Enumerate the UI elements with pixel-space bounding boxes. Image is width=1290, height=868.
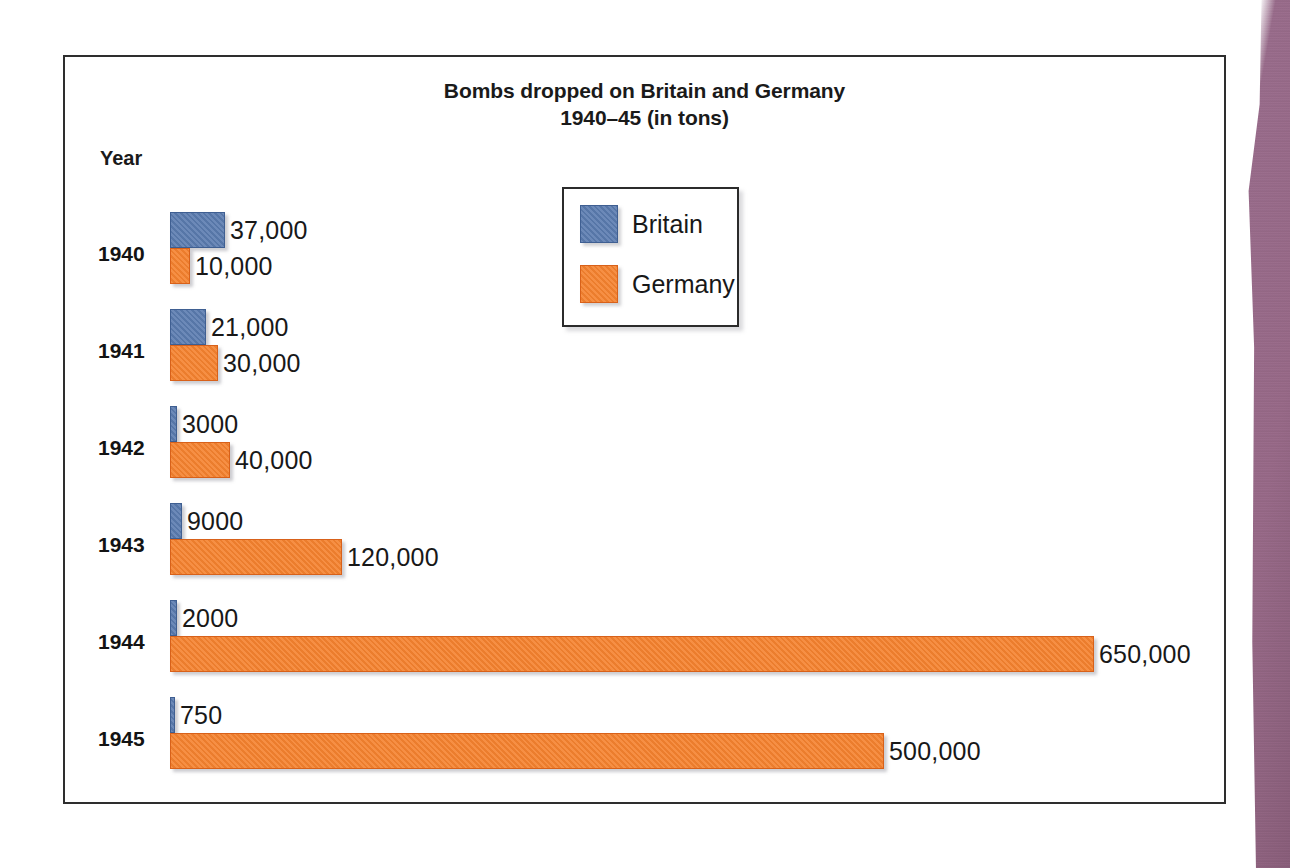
bar-row-britain-1942: 3000 xyxy=(170,406,238,442)
chart-frame: Bombs dropped on Britain and Germany 194… xyxy=(63,55,1226,804)
bar-row-germany-1943: 120,000 xyxy=(170,539,439,575)
year-label-1945: 1945 xyxy=(98,727,170,751)
bar-value-germany-1945: 500,000 xyxy=(889,737,981,766)
bar-row-germany-1941: 30,000 xyxy=(170,345,301,381)
bar-britain-1943 xyxy=(170,503,182,539)
year-label-1942: 1942 xyxy=(98,436,170,460)
year-group-1944: 19442000650,000 xyxy=(65,600,1224,686)
bar-germany-1940 xyxy=(170,248,190,284)
page-edge-grain xyxy=(1244,0,1290,868)
bar-row-britain-1945: 750 xyxy=(170,697,222,733)
year-label-1940: 1940 xyxy=(98,242,170,266)
bar-value-germany-1941: 30,000 xyxy=(223,349,301,378)
bar-stack-1942: 300040,000 xyxy=(170,406,1224,492)
bar-germany-1945 xyxy=(170,733,884,769)
bar-row-germany-1944: 650,000 xyxy=(170,636,1191,672)
bar-value-britain-1941: 21,000 xyxy=(211,313,289,342)
year-label-1941: 1941 xyxy=(98,339,170,363)
bar-germany-1943 xyxy=(170,539,342,575)
year-label-1944: 1944 xyxy=(98,630,170,654)
bar-britain-1941 xyxy=(170,309,206,345)
bar-row-britain-1944: 2000 xyxy=(170,600,238,636)
legend-label-germany: Germany xyxy=(632,270,735,299)
plot-area: 194037,00010,000194121,00030,00019423000… xyxy=(65,57,1224,802)
bar-stack-1943: 9000120,000 xyxy=(170,503,1224,589)
bar-value-britain-1945: 750 xyxy=(180,701,222,730)
bar-britain-1944 xyxy=(170,600,177,636)
year-group-1943: 19439000120,000 xyxy=(65,503,1224,589)
bar-row-germany-1942: 40,000 xyxy=(170,442,313,478)
bar-germany-1941 xyxy=(170,345,218,381)
year-group-1945: 1945750500,000 xyxy=(65,697,1224,783)
bar-stack-1944: 2000650,000 xyxy=(170,600,1224,686)
bar-germany-1942 xyxy=(170,442,230,478)
bar-value-britain-1943: 9000 xyxy=(187,507,243,536)
bar-value-germany-1944: 650,000 xyxy=(1099,640,1191,669)
bar-row-britain-1943: 9000 xyxy=(170,503,243,539)
legend-item-germany[interactable]: Germany xyxy=(580,265,735,303)
bar-britain-1940 xyxy=(170,212,225,248)
bar-stack-1945: 750500,000 xyxy=(170,697,1224,783)
bar-value-germany-1942: 40,000 xyxy=(235,446,313,475)
legend-swatch-britain xyxy=(580,205,618,243)
bar-value-britain-1944: 2000 xyxy=(182,604,238,633)
bar-value-germany-1943: 120,000 xyxy=(347,543,439,572)
legend-label-britain: Britain xyxy=(632,210,703,239)
bar-row-britain-1941: 21,000 xyxy=(170,309,289,345)
bar-row-britain-1940: 37,000 xyxy=(170,212,308,248)
bar-value-britain-1942: 3000 xyxy=(182,410,238,439)
bar-britain-1945 xyxy=(170,697,175,733)
year-label-1943: 1943 xyxy=(98,533,170,557)
bar-value-britain-1940: 37,000 xyxy=(230,216,308,245)
chart-legend: BritainGermany xyxy=(562,187,739,327)
year-group-1942: 1942300040,000 xyxy=(65,406,1224,492)
bar-value-germany-1940: 10,000 xyxy=(195,252,273,281)
bar-britain-1942 xyxy=(170,406,177,442)
bar-germany-1944 xyxy=(170,636,1094,672)
bar-row-germany-1945: 500,000 xyxy=(170,733,981,769)
bar-row-germany-1940: 10,000 xyxy=(170,248,273,284)
legend-swatch-germany xyxy=(580,265,618,303)
legend-item-britain[interactable]: Britain xyxy=(580,205,703,243)
page-edge-artifact xyxy=(1244,0,1290,868)
